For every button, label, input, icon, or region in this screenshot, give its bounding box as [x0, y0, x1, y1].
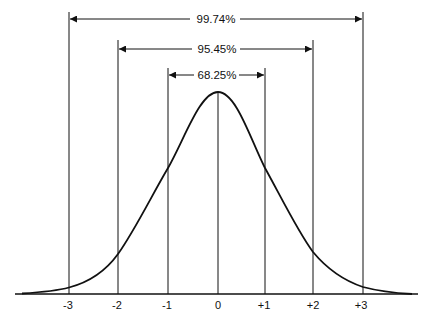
normal-curve: [22, 92, 412, 294]
tick-label-plus-3: +3: [355, 299, 368, 311]
tick-label-zero: 0: [215, 299, 221, 311]
tick-label-plus-1: +1: [258, 299, 271, 311]
tick-label-plus-2: +2: [307, 299, 320, 311]
normal-distribution-diagram: 99.74% 95.45% 68.25% -3 -2 -1 0 +1 +2 +3: [0, 0, 430, 320]
tick-label-minus-3: -3: [63, 299, 73, 311]
two-sigma-label: 95.45%: [197, 43, 236, 55]
three-sigma-label: 99.74%: [196, 13, 235, 25]
tick-label-minus-2: -2: [112, 299, 122, 311]
one-sigma-label: 68.25%: [197, 69, 236, 81]
tick-label-minus-1: -1: [162, 299, 172, 311]
